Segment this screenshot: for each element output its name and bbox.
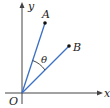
point-b-label: B (72, 41, 81, 54)
origin-label: O (9, 95, 18, 108)
x-axis-arrow-icon (97, 91, 103, 96)
x-axis (5, 91, 103, 96)
point-b-dot (67, 44, 71, 48)
angle-theta-label: θ (41, 54, 47, 65)
point-a-label: A (41, 8, 50, 21)
vector-angle-diagram: y x O A B θ (0, 0, 110, 108)
x-axis-label: x (104, 87, 110, 100)
y-axis-label: y (27, 0, 35, 13)
point-a-dot (43, 21, 47, 25)
y-axis-arrow-icon (20, 2, 25, 8)
